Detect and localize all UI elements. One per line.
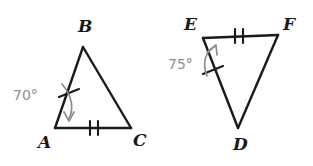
- angle-label-e: 75°: [168, 57, 193, 71]
- vertex-label-a: A: [38, 134, 51, 151]
- geometry-figure-canvas: B A C 70° E F D 75°: [0, 0, 313, 166]
- vertex-label-f: F: [283, 16, 295, 33]
- triangle-def-shape: [203, 35, 278, 128]
- vertex-label-c: C: [133, 132, 147, 149]
- segment-bc: [83, 47, 131, 128]
- vertex-label-d: D: [233, 136, 248, 153]
- segment-ef: [203, 35, 278, 38]
- angle-label-a: 70°: [13, 88, 38, 102]
- vertex-label-e: E: [184, 16, 197, 33]
- segment-ab: [55, 47, 83, 128]
- segment-fd: [238, 35, 278, 128]
- vertex-label-b: B: [78, 18, 92, 35]
